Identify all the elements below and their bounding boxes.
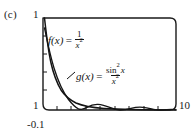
annotation-g-equals: = — [96, 71, 102, 82]
annotation-g-fraction: sin2x x2 — [105, 66, 126, 86]
annotation-f-paren-close: ) — [60, 35, 64, 46]
figure-panel-c: (c) 1 1 10 -0.1 — [0, 0, 196, 139]
annotation-f-denominator: x2 — [75, 39, 84, 50]
annotation-g-denominator: x2 — [111, 75, 120, 86]
annotation-g-paren-close: ) — [90, 71, 94, 82]
g-label-leader-line — [67, 72, 75, 79]
annotation-f-fraction: 1 x2 — [75, 30, 84, 50]
annotation-g: g(x)= sin2x x2 — [76, 66, 126, 86]
annotation-f-equals: = — [66, 35, 72, 46]
annotation-f: f(x)= 1 x2 — [48, 30, 84, 50]
